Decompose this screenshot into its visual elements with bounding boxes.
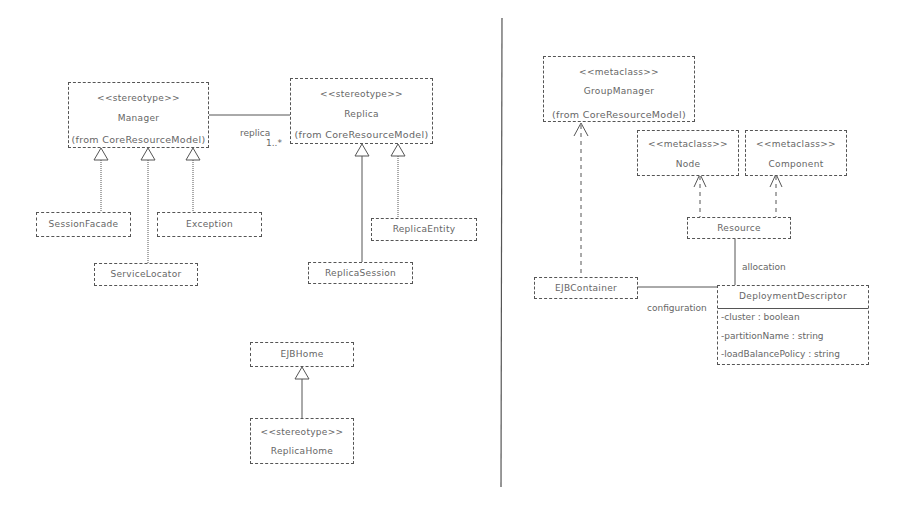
attribute-load-balance-policy: -loadBalancePolicy : string — [721, 349, 840, 359]
association-multiplicity-label: 1..* — [266, 138, 282, 148]
class-exception[interactable]: Exception — [157, 212, 262, 237]
panel-divider — [501, 18, 502, 487]
class-ejb-container[interactable]: EJBContainer — [534, 277, 638, 299]
attribute-cluster: -cluster : boolean — [721, 312, 800, 322]
class-name: GroupManager — [544, 86, 694, 96]
class-replica[interactable]: <<stereotype>> Replica (from CoreResourc… — [290, 78, 433, 144]
class-group-manager[interactable]: <<metaclass>> GroupManager (from CoreRes… — [543, 56, 695, 122]
stereotype-label: <<metaclass>> — [544, 67, 694, 77]
class-name: Exception — [158, 219, 261, 229]
class-manager[interactable]: <<stereotype>> Manager (from CoreResourc… — [68, 82, 209, 148]
stereotype-label: <<stereotype>> — [251, 427, 353, 437]
from-package: (from CoreResourceModel) — [291, 129, 432, 140]
stereotype-label: <<metaclass>> — [746, 139, 846, 149]
class-name: EJBContainer — [535, 283, 637, 293]
class-name: ReplicaHome — [251, 446, 353, 456]
allocation-label: allocation — [742, 262, 786, 272]
class-name: Resource — [688, 223, 790, 233]
class-deployment-descriptor[interactable]: DeploymentDescriptor -cluster : boolean … — [717, 285, 869, 365]
class-name: SessionFacade — [37, 219, 130, 229]
stereotype-label: <<stereotype>> — [69, 93, 208, 103]
class-replica-session[interactable]: ReplicaSession — [308, 262, 413, 284]
class-ejb-home[interactable]: EJBHome — [250, 342, 354, 367]
stereotype-label: <<metaclass>> — [638, 139, 738, 149]
class-name: Component — [746, 159, 846, 169]
class-name: Replica — [291, 109, 432, 119]
class-name: DeploymentDescriptor — [718, 291, 868, 301]
from-package: (from CoreResourceModel) — [69, 134, 208, 145]
class-replica-home[interactable]: <<stereotype>> ReplicaHome — [250, 418, 354, 464]
class-node[interactable]: <<metaclass>> Node — [637, 130, 739, 176]
class-service-locator[interactable]: ServiceLocator — [94, 263, 198, 286]
class-name: ReplicaEntity — [372, 224, 476, 234]
class-resource[interactable]: Resource — [687, 217, 791, 239]
class-name: ServiceLocator — [95, 269, 197, 279]
attribute-partition-name: -partitionName : string — [721, 331, 824, 341]
connector-lines — [0, 0, 905, 515]
class-name: ReplicaSession — [309, 268, 412, 278]
class-component[interactable]: <<metaclass>> Component — [745, 130, 847, 176]
compartment-divider — [718, 308, 868, 309]
class-name: Node — [638, 159, 738, 169]
class-replica-entity[interactable]: ReplicaEntity — [371, 218, 477, 241]
class-session-facade[interactable]: SessionFacade — [36, 212, 131, 237]
class-name: EJBHome — [251, 349, 353, 359]
stereotype-label: <<stereotype>> — [291, 89, 432, 99]
association-role-label: replica — [240, 128, 270, 138]
class-name: Manager — [69, 113, 208, 123]
from-package: (from CoreResourceModel) — [544, 109, 694, 120]
configuration-label: configuration — [647, 303, 707, 313]
